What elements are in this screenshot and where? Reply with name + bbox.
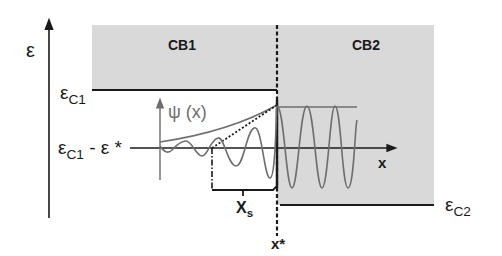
- xs-label: Xs: [236, 200, 253, 220]
- level-subscript: C1: [66, 147, 83, 162]
- xs-subscript: s: [247, 207, 253, 219]
- cb1-band-region: [92, 25, 277, 90]
- ec2-label: εC2: [445, 195, 471, 218]
- cb2-label: CB2: [352, 38, 380, 52]
- xs-symbol: X: [236, 199, 247, 216]
- ec1-label: εC1: [60, 83, 86, 106]
- cb1-label: CB1: [168, 38, 196, 52]
- psi-label: ψ (x): [168, 103, 207, 121]
- x-axis-label: x: [378, 155, 386, 170]
- ec1-subscript: C1: [68, 92, 85, 107]
- xs-bracket: [212, 186, 277, 190]
- xstar-label: x*: [271, 236, 285, 251]
- level-rest: - ε *: [84, 137, 122, 158]
- energy-level-label: εC1 - ε *: [58, 138, 122, 161]
- ec2-subscript: C2: [453, 204, 470, 219]
- energy-axis-label: ε: [26, 40, 35, 60]
